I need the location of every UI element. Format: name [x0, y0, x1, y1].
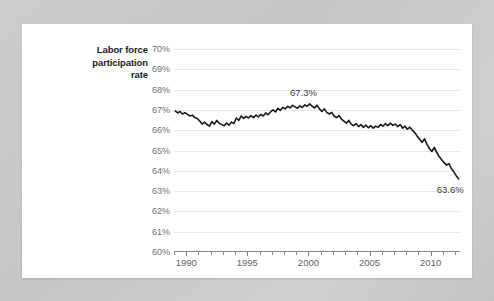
end-label: 63.6%	[437, 185, 464, 195]
x-axis-tick	[357, 252, 358, 255]
x-axis-tick-label: 2010	[420, 258, 441, 268]
x-axis-tick	[308, 252, 309, 256]
x-axis-tick	[198, 252, 199, 255]
x-axis-tick	[382, 252, 383, 255]
y-axis-tick-label: 70%	[152, 45, 170, 54]
y-axis-tick-label: 67%	[152, 105, 170, 114]
x-axis-tick	[284, 252, 285, 255]
y-axis-tick-label: 69%	[152, 65, 170, 74]
x-axis-tick	[406, 252, 407, 255]
chart-title: Labor force participation rate	[48, 44, 148, 82]
x-axis-tick	[247, 252, 248, 256]
y-axis-tick-label: 62%	[152, 207, 170, 216]
x-axis-tick	[321, 252, 322, 255]
x-axis-tick	[394, 252, 395, 255]
series-line-chart	[174, 49, 460, 252]
x-axis-tick	[296, 252, 297, 255]
x-axis-tick	[211, 252, 212, 255]
y-axis-tick-label: 68%	[152, 85, 170, 94]
chart-plot-area: 70%69%68%67%66%65%64%63%62%61%60% 199019…	[174, 49, 460, 252]
y-axis-tick-label: 60%	[152, 248, 170, 257]
x-axis-tick	[443, 252, 444, 255]
chart-title-line-2: participation	[48, 57, 148, 70]
chart-title-line-1: Labor force	[48, 44, 148, 57]
screenshot-root: Labor force participation rate 70%69%68%…	[0, 0, 494, 301]
x-axis-tick	[418, 252, 419, 255]
x-axis-tick	[345, 252, 346, 255]
x-axis-tick	[370, 252, 371, 256]
chart-card: Labor force participation rate 70%69%68%…	[22, 24, 472, 278]
peak-label: 67.3%	[290, 88, 317, 98]
y-axis-tick-label: 63%	[152, 187, 170, 196]
x-axis-tick	[235, 252, 236, 255]
chart-title-line-3: rate	[48, 69, 148, 82]
series-path	[175, 104, 459, 179]
x-axis-tick-label: 1990	[176, 258, 197, 268]
x-axis-tick	[223, 252, 224, 255]
x-axis-tick	[431, 252, 432, 256]
x-axis-tick	[186, 252, 187, 256]
x-axis-tick	[272, 252, 273, 255]
x-axis-tick	[260, 252, 261, 255]
y-axis-tick-label: 64%	[152, 166, 170, 175]
x-axis-tick	[333, 252, 334, 255]
y-axis-tick-label: 66%	[152, 126, 170, 135]
x-axis-tick-label: 2005	[359, 258, 380, 268]
x-axis-tick-label: 1995	[237, 258, 258, 268]
x-axis-tick	[455, 252, 456, 255]
y-axis-tick-label: 61%	[152, 227, 170, 236]
y-axis-tick-label: 65%	[152, 146, 170, 155]
x-axis-tick	[174, 252, 175, 255]
chart-plot-wrapper: 70%69%68%67%66%65%64%63%62%61%60% 199019…	[148, 44, 462, 274]
x-axis-tick-label: 2000	[298, 258, 319, 268]
